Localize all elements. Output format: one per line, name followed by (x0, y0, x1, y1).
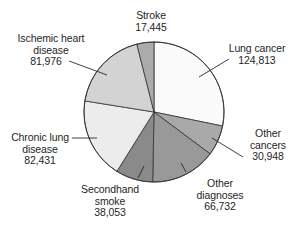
label-stroke-name: Stroke (122, 10, 180, 22)
label-secondhand-smoke: Secondhand smoke 38,053 (72, 184, 148, 219)
label-other-cancers-value: 30,948 (240, 151, 296, 163)
label-secondhand-name: Secondhand (72, 184, 148, 196)
label-ischemic-name: Ischemic heart (6, 33, 96, 45)
label-stroke: Stroke 17,445 (122, 10, 180, 33)
label-chronic-name: Chronic lung (4, 132, 76, 144)
label-ischemic-heart: Ischemic heart disease 81,976 (6, 33, 96, 68)
label-other-cancers-name: Other (240, 128, 296, 140)
label-other-cancers: Other cancers 30,948 (240, 128, 296, 163)
pie-chart: Stroke 17,445 Ischemic heart disease 81,… (0, 0, 299, 233)
label-ischemic-value: 81,976 (0, 56, 96, 68)
label-other-diagnoses-name: Other (180, 178, 260, 190)
label-stroke-value: 17,445 (122, 22, 180, 34)
label-other-diagnoses-value: 66,732 (180, 201, 260, 213)
pie-slice-lung-cancer (154, 42, 224, 126)
pie-slices (84, 42, 224, 182)
label-chronic-value: 82,431 (4, 155, 76, 167)
label-secondhand-value: 38,053 (72, 207, 148, 219)
leader-line-other-cancers (212, 138, 243, 157)
label-lung-cancer: Lung cancer 124,813 (218, 43, 296, 66)
label-chronic-lung: Chronic lung disease 82,431 (4, 132, 76, 167)
label-lung-cancer-name: Lung cancer (218, 43, 296, 55)
label-lung-cancer-value: 124,813 (218, 55, 296, 67)
label-other-diagnoses: Other diagnoses 66,732 (180, 178, 260, 213)
